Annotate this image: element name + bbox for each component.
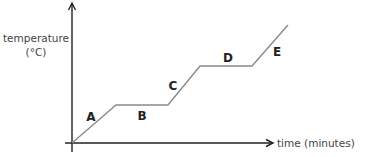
segment-label-a: A	[86, 110, 96, 124]
segment-label-b: B	[137, 109, 146, 123]
segment-label-d: D	[223, 51, 233, 65]
x-axis-label: time (minutes)	[277, 137, 355, 149]
segment-label-e: E	[273, 45, 281, 59]
temperature-curve	[72, 25, 288, 143]
heating-curve-diagram: temperature (°C) time (minutes) A B C D …	[0, 0, 392, 157]
y-axis-label: temperature	[3, 32, 69, 44]
y-axis-unit: (°C)	[26, 46, 47, 58]
segment-label-c: C	[169, 79, 178, 93]
